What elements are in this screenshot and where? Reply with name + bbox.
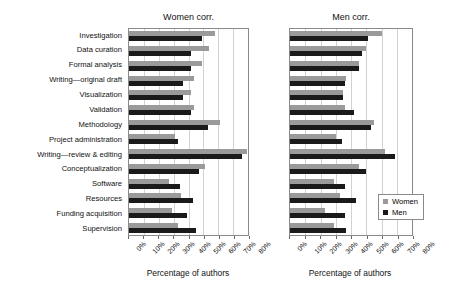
bar-group — [129, 161, 248, 176]
panel-title-men: Men corr. — [289, 12, 413, 22]
bar-group — [290, 147, 412, 162]
bar-group — [129, 58, 248, 73]
bar-group — [129, 132, 248, 147]
x-tick-label: 0% — [296, 240, 308, 252]
bar-group — [290, 132, 412, 147]
bar-group — [290, 220, 412, 235]
x-tick-label: 70% — [242, 240, 257, 255]
bar-group — [129, 88, 248, 103]
category-label: Investigation — [0, 28, 126, 43]
category-label: Visualization — [0, 87, 126, 102]
category-label: Formal analysis — [0, 58, 126, 73]
category-label: Validation — [0, 102, 126, 117]
bar-men — [129, 95, 183, 100]
bar-men — [290, 139, 342, 144]
bar-group — [290, 176, 412, 191]
bar-men — [129, 169, 199, 174]
bar-men — [290, 184, 345, 189]
bar-group — [129, 191, 248, 206]
x-tick — [249, 236, 250, 239]
legend-item: Women — [383, 198, 418, 206]
x-tick — [367, 236, 368, 239]
category-label: Funding acquisition — [0, 206, 126, 221]
category-label: Data curation — [0, 43, 126, 58]
bar-group — [290, 44, 412, 59]
bar-men — [129, 125, 208, 130]
x-tick — [143, 236, 144, 239]
bar-men — [129, 228, 196, 233]
x-axis-men: 0%10%20%30%40%50%60%70%80% — [289, 236, 413, 266]
figure-root: InvestigationData curationFormal analysi… — [0, 0, 460, 292]
panel-title-women: Women corr. — [128, 12, 249, 22]
x-tick-label: 20% — [166, 240, 181, 255]
category-label: Resources — [0, 191, 126, 206]
category-label: Writing—review & editing — [0, 147, 126, 162]
x-tick — [320, 236, 321, 239]
x-tick-label: 40% — [197, 240, 212, 255]
x-tick — [351, 236, 352, 239]
legend-label: Men — [392, 209, 407, 217]
bar-group — [290, 58, 412, 73]
bar-group — [290, 29, 412, 44]
x-tick — [234, 236, 235, 239]
bar-men — [129, 81, 183, 86]
bar-group — [129, 220, 248, 235]
x-tick — [158, 236, 159, 239]
bar-men — [290, 81, 345, 86]
x-tick — [189, 236, 190, 239]
chart-panel-women — [128, 28, 249, 236]
x-axis-label-men: Percentage of authors — [280, 268, 420, 278]
x-tick — [289, 236, 290, 239]
bar-men — [290, 125, 371, 130]
plot-area-women — [129, 29, 248, 235]
bar-men — [129, 184, 180, 189]
category-label: Methodology — [0, 117, 126, 132]
bar-group — [129, 73, 248, 88]
x-tick-label: 70% — [406, 240, 421, 255]
bar-men — [290, 213, 345, 218]
bar-men — [290, 110, 354, 115]
x-tick — [204, 236, 205, 239]
category-label: Project administration — [0, 132, 126, 147]
x-tick — [219, 236, 220, 239]
bar-rows — [129, 29, 248, 235]
category-label: Conceptualization — [0, 162, 126, 177]
category-label: Writing—original draft — [0, 73, 126, 88]
bar-men — [129, 139, 178, 144]
bar-group — [129, 44, 248, 59]
bar-group — [290, 161, 412, 176]
bar-group — [290, 103, 412, 118]
x-tick-label: 40% — [359, 240, 374, 255]
x-tick — [305, 236, 306, 239]
legend-swatch-women-icon — [383, 199, 388, 204]
x-axis-label-women: Percentage of authors — [118, 268, 258, 278]
bar-men — [290, 154, 395, 159]
bar-men — [290, 51, 362, 56]
bar-men — [290, 198, 356, 203]
x-tick-label: 10% — [313, 240, 328, 255]
x-tick-label: 60% — [227, 240, 242, 255]
bar-men — [129, 66, 191, 71]
x-tick-label: 80% — [421, 240, 436, 255]
bar-men — [129, 198, 193, 203]
category-label: Supervision — [0, 221, 126, 236]
bar-men — [290, 36, 368, 41]
x-tick-label: 0% — [135, 240, 147, 252]
x-tick-label: 50% — [375, 240, 390, 255]
bar-men — [129, 36, 202, 41]
x-axis-women: 0%10%20%30%40%50%60%70%80% — [128, 236, 249, 266]
x-tick — [413, 236, 414, 239]
x-tick-label: 30% — [181, 240, 196, 255]
bar-group — [129, 29, 248, 44]
bar-men — [129, 110, 191, 115]
bar-men — [290, 228, 346, 233]
x-tick — [336, 236, 337, 239]
x-tick — [398, 236, 399, 239]
legend-label: Women — [392, 198, 418, 206]
x-tick-label: 80% — [257, 240, 272, 255]
x-tick-label: 60% — [390, 240, 405, 255]
bar-men — [290, 66, 359, 71]
bar-group — [290, 117, 412, 132]
x-tick-label: 10% — [151, 240, 166, 255]
bar-men — [290, 95, 343, 100]
